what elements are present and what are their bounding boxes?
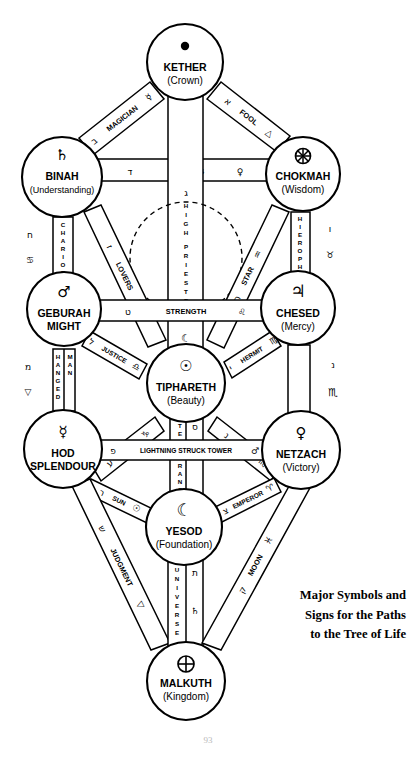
earth-cross-icon (178, 656, 194, 672)
path-strength[interactable]: STRENGTH ט ♌ (98, 300, 265, 321)
path-tower-sign: ♂ (251, 446, 259, 456)
chokmah-sub: (Wisdom) (282, 184, 325, 195)
hi-l3: R (298, 239, 303, 246)
wheel-icon (296, 149, 311, 164)
right-pillar-sign: ♏ (328, 386, 338, 399)
yesod-sub: (Foundation) (156, 539, 213, 550)
hm-r2: N (68, 369, 73, 376)
tp-l1: E (178, 430, 182, 437)
path-tower[interactable]: LIGHTNING STRUCK TOWER פ ♂ (99, 440, 265, 460)
path-empress-sign: ♀ (237, 167, 244, 177)
jupiter-icon: ♃ (290, 281, 305, 301)
path-hanged-man-sign: ▽ (25, 387, 32, 397)
hm-l5: D (56, 393, 61, 400)
hm-l3: G (56, 377, 61, 384)
hm-l1: A (56, 361, 61, 368)
mars-icon: ♂ (57, 283, 70, 301)
un-l2: I (176, 584, 178, 591)
path-high-priestess-hebrew: ג (184, 188, 188, 198)
chokmah-name: CHOKMAH (276, 170, 331, 182)
sephirah-malkuth[interactable]: MALKUTH (Kingdom) (147, 642, 225, 720)
hp-l2: G (184, 220, 189, 227)
caption-line-1: Major Symbols and (244, 586, 406, 606)
un-l0: U (175, 566, 180, 573)
tp-l5: R (178, 462, 183, 469)
tp-l6: A (178, 470, 183, 477)
sephirah-tiphareth[interactable]: ☉ TIPHARETH (Beauty) (147, 344, 225, 422)
sephirah-netzach[interactable]: ♀ NETZACH (Victory) (262, 411, 340, 489)
path-tower-hebrew: פ (110, 446, 116, 456)
hi-l5: P (298, 255, 302, 262)
hp-l4: P (184, 243, 188, 250)
caption-line-3: to the Tree of Life (244, 625, 406, 645)
malkuth-sub: (Kingdom) (163, 691, 209, 702)
sephirah-kether[interactable]: KETHER (Crown) (147, 24, 223, 100)
caption-line-2: Signs for the Paths (244, 606, 406, 626)
hp-l0: H (184, 202, 189, 209)
path-strength-label: STRENGTH (166, 307, 207, 316)
chesed-sub: (Mercy) (281, 321, 315, 332)
path-right-pillar-chesed-netzach[interactable]: נ ♏ (288, 345, 338, 413)
hi-l6: H (298, 263, 303, 270)
kether-name: KETHER (163, 61, 207, 73)
ch-l2: A (61, 237, 66, 244)
tiphareth-name: TIPHARETH (156, 381, 216, 393)
hm-l0: H (56, 353, 61, 360)
hp-l9: T (184, 288, 188, 295)
page-number: 93 (0, 735, 416, 745)
path-universe[interactable]: U N I V E R S E ת ♄ (168, 560, 203, 648)
sephirah-yesod[interactable]: ☾ YESOD (Foundation) (146, 489, 222, 565)
right-pillar-hebrew: נ (331, 360, 335, 370)
geburah-name: GEBURAH (37, 307, 90, 319)
hi-l1: I (299, 223, 301, 230)
figure-caption: Major Symbols and Signs for the Paths to… (244, 586, 406, 645)
ch-l1: H (61, 229, 66, 236)
path-chariot-letters: C H A R I O T (61, 221, 66, 276)
hp-l6: I (185, 261, 187, 268)
hm-r1: A (68, 361, 73, 368)
malkuth-name: MALKUTH (160, 677, 212, 689)
hi-l2: E (298, 231, 302, 238)
mercury-icon: ☿ (58, 423, 67, 441)
tp-l0: T (178, 422, 182, 429)
ch-l4: I (62, 253, 64, 260)
path-hanged-man[interactable]: H A N G E D M A N מ ▽ (25, 349, 75, 411)
kether-sub: (Crown) (167, 75, 203, 86)
sephirah-chokmah[interactable]: CHOKMAH (Wisdom) (266, 137, 340, 211)
un-l4: E (175, 602, 179, 609)
path-chariot[interactable]: C H A R I O T ח ♋ (26, 217, 73, 277)
hp-l7: E (184, 270, 188, 277)
sun-icon: ☉ (179, 357, 192, 375)
hp-l8: S (184, 279, 188, 286)
path-magician[interactable]: MAGICIAN ב ☿ (79, 82, 164, 155)
sephirah-binah[interactable]: ♄ BINAH (Understanding) (22, 137, 102, 217)
tp-l7: N (178, 478, 183, 485)
kether-point-icon (181, 42, 189, 50)
path-justice[interactable]: JUSTICE ל ♎ (82, 331, 147, 379)
hp-l5: R (184, 252, 189, 259)
hp-l1: I (185, 211, 187, 218)
sephirah-hod[interactable]: ☿ HOD SPLENDOUR (24, 410, 102, 488)
ch-l5: O (61, 261, 66, 268)
hp-l3: H (184, 229, 189, 236)
ch-l3: R (61, 245, 66, 252)
sephirah-geburah[interactable]: ♂ GEBURAH MIGHT (27, 272, 101, 346)
hod-sub: SPLENDOUR (30, 460, 96, 472)
hi-l4: O (298, 247, 303, 254)
binah-sub: (Understanding) (30, 185, 95, 195)
venus-icon: ♀ (296, 424, 307, 442)
path-tower-label: LIGHTNING STRUCK TOWER (140, 447, 232, 454)
path-emperor[interactable]: EMPEROR צ ♈ (213, 478, 281, 523)
path-chariot-hebrew: ח (27, 230, 33, 240)
un-l7: E (175, 629, 179, 636)
path-fool[interactable]: FOOL א △ (207, 82, 290, 152)
yesod-name: YESOD (166, 525, 203, 537)
hod-name: HOD (51, 447, 75, 459)
path-hierophant-hebrew: ו (329, 224, 331, 234)
sephirah-chesed[interactable]: ♃ CHESED (Mercy) (261, 271, 335, 345)
moon-icon: ☾ (176, 500, 191, 520)
geburah-sub: MIGHT (47, 320, 81, 332)
un-l1: N (175, 575, 180, 582)
netzach-sub: (Victory) (282, 462, 319, 473)
path-hermit[interactable]: HERMIT י ♍ (224, 331, 281, 378)
